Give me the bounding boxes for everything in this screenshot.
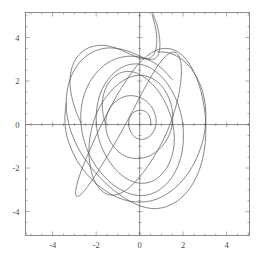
x-tick-label: 2	[181, 240, 185, 250]
phase-portrait-figure: -4-2024 -4-2024	[0, 0, 265, 259]
y-tick-label: 2	[15, 76, 19, 86]
y-tick-label: -4	[12, 207, 20, 217]
y-tick-label: -2	[12, 163, 19, 173]
x-tick-label: 0	[138, 240, 142, 250]
x-tick-label: 4	[225, 240, 230, 250]
y-tick-label: 4	[15, 33, 20, 43]
y-tick-labels: -4-2024	[12, 33, 20, 217]
x-tick-label: -2	[93, 240, 100, 250]
plot-canvas: -4-2024 -4-2024	[0, 0, 265, 259]
x-tick-labels: -4-2024	[49, 240, 229, 250]
y-tick-label: 0	[15, 120, 19, 130]
trajectory-path	[65, 52, 206, 202]
trajectory-path	[70, 15, 157, 123]
trajectory-path	[66, 13, 206, 209]
x-tick-label: -4	[49, 240, 57, 250]
trajectory-curves	[65, 13, 206, 209]
